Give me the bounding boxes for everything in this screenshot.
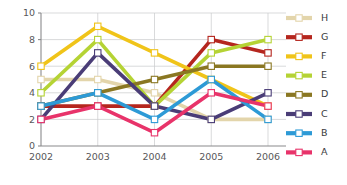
chart-canvas: 0246810 20022003200420052006 HGFEDCBA bbox=[0, 0, 347, 185]
data-point-marker-c bbox=[265, 90, 271, 96]
legend-label-a: A bbox=[321, 146, 328, 157]
data-point-marker-e bbox=[95, 36, 101, 42]
data-point-marker-b bbox=[38, 103, 44, 109]
data-point-marker-a bbox=[151, 130, 157, 136]
data-point-marker-b bbox=[208, 76, 214, 82]
y-tick-label: 10 bbox=[23, 7, 35, 18]
legend-label-e: E bbox=[321, 69, 327, 80]
legend-label-f: F bbox=[321, 50, 326, 61]
x-tick-label: 2005 bbox=[199, 151, 223, 162]
legend-marker-e bbox=[296, 72, 302, 78]
y-tick-label: 6 bbox=[29, 61, 35, 72]
y-tick-label: 4 bbox=[29, 87, 35, 98]
data-point-marker-d bbox=[151, 76, 157, 82]
data-point-marker-f bbox=[95, 23, 101, 29]
legend-label-c: C bbox=[321, 108, 328, 119]
legend-label-h: H bbox=[321, 12, 328, 23]
data-point-marker-g bbox=[265, 50, 271, 56]
data-point-marker-a bbox=[208, 90, 214, 96]
x-tick-label: 2004 bbox=[142, 151, 166, 162]
y-tick-label: 2 bbox=[29, 114, 35, 125]
data-point-marker-f bbox=[151, 50, 157, 56]
data-point-marker-c bbox=[208, 116, 214, 122]
x-tick-label: 2006 bbox=[256, 151, 280, 162]
data-point-marker-a bbox=[265, 103, 271, 109]
legend-marker-a bbox=[296, 149, 302, 155]
legend-marker-g bbox=[296, 34, 302, 40]
data-point-marker-h bbox=[95, 76, 101, 82]
legend-label-g: G bbox=[321, 31, 328, 42]
y-tick-label: 0 bbox=[29, 140, 35, 151]
data-point-marker-e bbox=[265, 36, 271, 42]
legend-marker-f bbox=[296, 53, 302, 59]
y-tick-label: 8 bbox=[29, 34, 35, 45]
data-point-marker-c bbox=[95, 50, 101, 56]
legend-marker-h bbox=[296, 15, 302, 21]
data-point-marker-h bbox=[38, 76, 44, 82]
line-chart-figure: 0246810 20022003200420052006 HGFEDCBA bbox=[0, 0, 347, 185]
data-point-marker-a bbox=[95, 103, 101, 109]
legend-marker-b bbox=[296, 130, 302, 136]
data-point-marker-d bbox=[208, 63, 214, 69]
data-point-marker-e bbox=[38, 90, 44, 96]
x-tick-label: 2003 bbox=[86, 151, 110, 162]
data-point-marker-e bbox=[208, 50, 214, 56]
data-point-marker-b bbox=[95, 90, 101, 96]
data-point-marker-h bbox=[151, 90, 157, 96]
data-point-marker-c bbox=[151, 103, 157, 109]
data-point-marker-g bbox=[208, 36, 214, 42]
legend-marker-c bbox=[296, 111, 302, 117]
legend-label-b: B bbox=[321, 127, 328, 138]
data-point-marker-b bbox=[151, 116, 157, 122]
x-tick-label: 2002 bbox=[29, 151, 53, 162]
legend-marker-d bbox=[296, 92, 302, 98]
legend-label-d: D bbox=[321, 88, 328, 99]
data-point-marker-f bbox=[38, 63, 44, 69]
data-point-marker-d bbox=[265, 63, 271, 69]
data-point-marker-a bbox=[38, 116, 44, 122]
data-point-marker-b bbox=[265, 116, 271, 122]
